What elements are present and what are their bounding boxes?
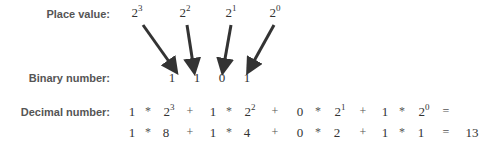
times-sign: * [395,125,409,140]
digit: 1 [122,104,142,120]
power: 22 [240,104,260,120]
equals-sign: = [439,104,453,119]
plus-sign: + [183,104,197,119]
arrow-icon [187,25,194,70]
result: 13 [462,125,482,141]
digit: 0 [290,125,310,141]
binary-digit: 1 [162,70,182,86]
digit: 1 [122,125,142,141]
times-sign: * [311,104,325,119]
times-sign: * [311,125,325,140]
power: 21 [330,104,350,120]
times-sign: * [222,104,236,119]
value: 8 [156,125,176,141]
binary-to-decimal-diagram: Place value: Binary number: Decimal numb… [0,0,490,156]
binary-digit: 1 [237,70,257,86]
digit: 1 [375,125,395,141]
digit: 0 [290,104,310,120]
equals-sign: = [439,125,453,140]
arrow-icon [249,25,274,70]
power: 23 [159,104,179,120]
plus-sign: + [356,104,370,119]
digit: 1 [203,125,223,141]
binary-digit: 0 [212,70,232,86]
times-sign: * [222,125,236,140]
digit: 1 [375,104,395,120]
power: 20 [414,104,434,120]
binary-digit: 1 [187,70,207,86]
times-sign: * [395,104,409,119]
value: 1 [411,125,431,141]
value: 4 [237,125,257,141]
arrow-icon [223,25,231,70]
times-sign: * [141,104,155,119]
times-sign: * [141,125,155,140]
plus-sign: + [268,104,282,119]
plus-sign: + [183,125,197,140]
value: 2 [327,125,347,141]
plus-sign: + [356,125,370,140]
arrow-icon [143,25,175,70]
digit: 1 [203,104,223,120]
plus-sign: + [268,125,282,140]
